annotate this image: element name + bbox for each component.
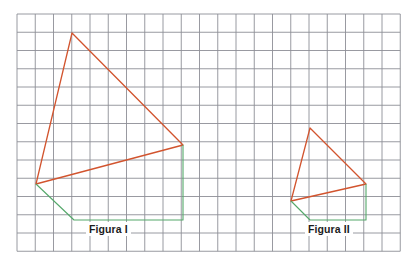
grid-and-figures-svg <box>0 0 418 273</box>
figure-1-helper-path <box>36 145 183 220</box>
figure-1-triangle <box>36 33 183 184</box>
figure-canvas: Figura I Figura II <box>0 0 418 273</box>
figure-1-label: Figura I <box>86 222 131 236</box>
figures-group <box>36 33 366 220</box>
figure-2-triangle <box>291 128 366 201</box>
figure-2-label: Figura II <box>305 222 353 236</box>
grid-lines <box>17 14 400 251</box>
